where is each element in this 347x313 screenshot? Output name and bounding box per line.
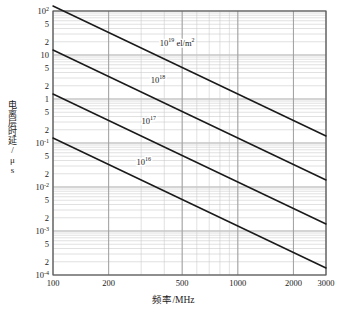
svg-text:1000: 1000	[229, 278, 246, 288]
svg-text:5: 5	[45, 63, 49, 73]
chart-plot-area: 1019 el/m21019 el/m210181018101710171016…	[0, 0, 347, 313]
svg-text:2: 2	[45, 81, 49, 91]
svg-text:5: 5	[45, 239, 49, 249]
svg-text:2: 2	[45, 125, 49, 135]
svg-text:2: 2	[45, 169, 49, 179]
svg-text:10-1: 10-1	[36, 138, 50, 148]
minor-gridlines	[53, 11, 326, 275]
svg-text:100: 100	[47, 278, 60, 288]
svg-text:5: 5	[45, 195, 49, 205]
x-axis-title: 频率/MHz	[0, 292, 347, 306]
svg-text:2: 2	[45, 37, 49, 47]
svg-text:10-2: 10-2	[36, 182, 50, 192]
svg-text:102: 102	[38, 6, 50, 16]
svg-text:5: 5	[45, 19, 49, 29]
y-axis-tick-labels: 10252105215210-15210-25210-35210-4	[36, 6, 50, 280]
svg-text:5: 5	[45, 151, 49, 161]
svg-text:1019 el/m2: 1019 el/m2	[160, 37, 195, 48]
svg-text:10: 10	[41, 50, 50, 60]
svg-text:1017: 1017	[142, 115, 157, 126]
svg-text:10-3: 10-3	[36, 226, 50, 236]
svg-text:2: 2	[45, 213, 49, 223]
svg-text:500: 500	[176, 278, 189, 288]
svg-text:5: 5	[45, 107, 49, 117]
svg-text:1018: 1018	[151, 74, 166, 85]
svg-text:2000: 2000	[285, 278, 302, 288]
svg-text:3000: 3000	[318, 278, 335, 288]
chart-figure: 电离层时延/μs 1019 el/m21019 el/m210181018101…	[0, 0, 347, 313]
svg-text:1: 1	[45, 94, 49, 104]
svg-text:200: 200	[102, 278, 115, 288]
x-axis-tick-labels: 100200500100020003000	[47, 278, 335, 288]
svg-text:2: 2	[45, 257, 49, 267]
svg-text:1016: 1016	[137, 156, 152, 167]
